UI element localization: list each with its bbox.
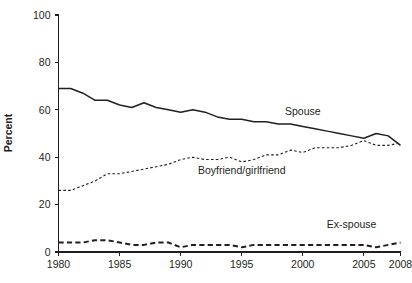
x-axis: 1980198519901995200020052008 bbox=[47, 252, 412, 270]
y-axis-tick-label: 20 bbox=[39, 198, 51, 210]
x-axis-tick-label: 1995 bbox=[230, 258, 254, 270]
y-axis-tick-label: 40 bbox=[39, 151, 51, 163]
x-axis-tick-label: 1985 bbox=[108, 258, 132, 270]
series-label-boyfriend-girlfriend: Boyfriend/girlfriend bbox=[198, 164, 286, 176]
series-line-spouse bbox=[59, 88, 401, 145]
x-axis-tick-label: 1980 bbox=[47, 258, 71, 270]
y-axis-title: Percent bbox=[2, 113, 14, 152]
x-axis-tick-label: 2005 bbox=[352, 258, 376, 270]
x-axis-tick-label: 2008 bbox=[389, 258, 412, 270]
y-axis-tick-label: 0 bbox=[45, 246, 51, 258]
y-axis-tick-label: 60 bbox=[39, 104, 51, 116]
y-axis-tick-label: 80 bbox=[39, 56, 51, 68]
chart-canvas: 020406080100 198019851990199520002005200… bbox=[0, 0, 412, 283]
line-chart: 020406080100 198019851990199520002005200… bbox=[0, 0, 412, 283]
y-axis-tick-label: 100 bbox=[33, 9, 51, 21]
y-axis: 020406080100 bbox=[33, 9, 59, 258]
series-line-ex-spouse bbox=[59, 240, 401, 247]
series-label-spouse: Spouse bbox=[285, 105, 321, 117]
x-axis-tick-label: 1990 bbox=[169, 258, 193, 270]
series-label-ex-spouse: Ex-spouse bbox=[327, 218, 377, 230]
x-axis-tick-label: 2000 bbox=[291, 258, 315, 270]
